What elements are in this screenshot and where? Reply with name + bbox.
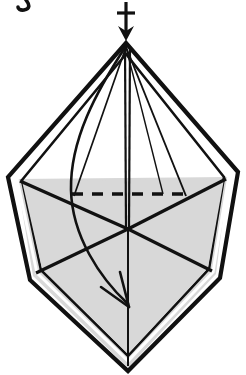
center-line-upper-left: [125, 46, 126, 228]
diagram-canvas: [0, 0, 246, 375]
upper-face-fill: [14, 45, 231, 176]
clipped-glyph-stroke: [18, 0, 29, 10]
white-upper-faces: [14, 45, 231, 176]
clipped-text-fragment: [18, 0, 29, 10]
origami-diagram-svg: [0, 0, 246, 375]
center-line-upper-right: [129, 46, 130, 228]
push-in-arrow: [117, 2, 135, 41]
